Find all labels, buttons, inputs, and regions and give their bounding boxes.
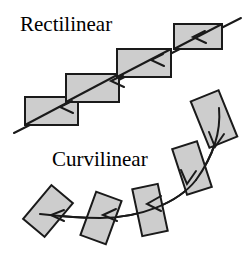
figure-container: Rectilinear Curvilinear (0, 0, 247, 253)
curvilinear-shape-2 (172, 141, 212, 195)
label-curvilinear: Curvilinear (52, 147, 148, 172)
rectilinear-shape-4 (174, 24, 222, 49)
label-rectilinear: Rectilinear (20, 12, 112, 37)
curvilinear-shape-5 (23, 185, 73, 237)
diagram-canvas (0, 0, 247, 253)
curvilinear-shape-1 (191, 90, 238, 148)
rectilinear-shape-2 (66, 74, 119, 102)
